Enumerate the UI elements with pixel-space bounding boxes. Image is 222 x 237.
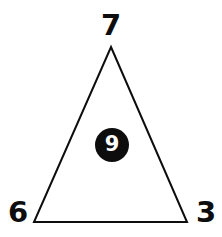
vertex-label-bottom-right: 3 bbox=[192, 198, 220, 227]
figure-canvas: 7 6 3 9 bbox=[0, 0, 222, 237]
interior-circle-token: 9 bbox=[95, 128, 129, 162]
vertex-label-top: 7 bbox=[96, 11, 126, 40]
vertex-label-bottom-left: 6 bbox=[4, 198, 32, 227]
interior-circle-token-label: 9 bbox=[105, 134, 120, 155]
